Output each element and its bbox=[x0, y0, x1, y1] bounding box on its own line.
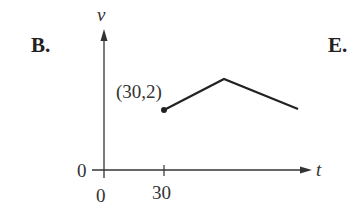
x-origin-label: 0 bbox=[96, 185, 106, 204]
figure: B. E. v t 0 0 30 (30,2) bbox=[0, 0, 352, 204]
start-point-marker bbox=[161, 107, 167, 113]
point-annotation: (30,2) bbox=[116, 81, 162, 103]
y-axis-arrow-icon bbox=[101, 29, 108, 41]
velocity-time-graph: v t 0 0 30 (30,2) bbox=[0, 0, 352, 204]
x-tick-30-label: 30 bbox=[152, 182, 171, 203]
y-origin-label: 0 bbox=[77, 160, 87, 181]
x-axis-arrow-icon bbox=[300, 167, 312, 174]
data-line bbox=[164, 79, 298, 110]
x-axis-label: t bbox=[316, 159, 322, 180]
y-axis-label: v bbox=[97, 4, 106, 25]
